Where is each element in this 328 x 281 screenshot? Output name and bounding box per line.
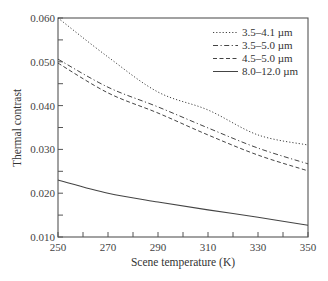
legend-label-3: 4.5–5.0 µm (242, 52, 293, 64)
y-tick-label: 0.010 (30, 231, 55, 243)
y-tick-label: 0.030 (30, 143, 55, 155)
x-tick-label: 290 (150, 241, 167, 253)
y-tick-label: 0.050 (30, 56, 55, 68)
legend-label-4: 8.0–12.0 µm (242, 65, 299, 77)
legend-label-2: 3.5–5.0 µm (242, 39, 293, 51)
y-tick-label: 0.020 (30, 187, 55, 199)
y-tick-label: 0.040 (30, 100, 55, 112)
x-axis-label: Scene temperature (K) (131, 256, 235, 269)
x-tick-label: 330 (250, 241, 267, 253)
legend: 3.5–4.1 µm3.5–5.0 µm4.5–5.0 µm8.0–12.0 µ… (213, 26, 299, 77)
x-tick-label: 310 (200, 241, 217, 253)
y-tick-label: 0.060 (30, 12, 55, 24)
x-tick-label: 350 (300, 241, 317, 253)
thermal-contrast-chart: 2502702903103303500.0100.0200.0300.0400.… (0, 0, 328, 281)
series-line-4 (58, 180, 308, 225)
y-axis-label: Thermal contrast (11, 88, 23, 167)
x-tick-label: 270 (100, 241, 117, 253)
legend-label-1: 3.5–4.1 µm (242, 26, 293, 38)
